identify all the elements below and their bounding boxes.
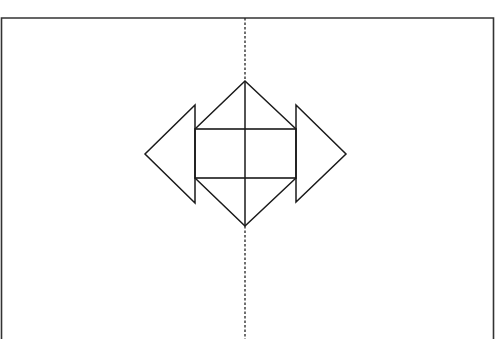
diagram-canvas bbox=[0, 0, 498, 339]
right-triangle bbox=[296, 105, 346, 202]
left-triangle bbox=[145, 105, 195, 203]
